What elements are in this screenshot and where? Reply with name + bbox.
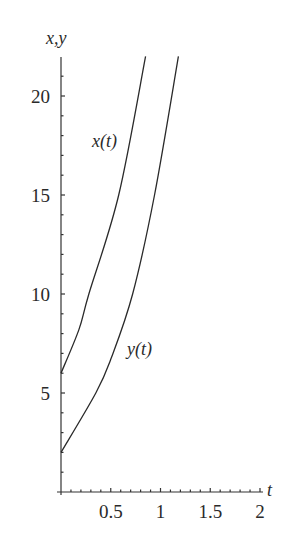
x-tick-label: 1 [156, 501, 166, 522]
series-label-y: y(t) [125, 339, 152, 360]
y-tick-label: 20 [31, 86, 50, 107]
chart: 0.511.525101520 x,y t x(t) y(t) [0, 0, 296, 554]
labels: 0.511.525101520 [31, 86, 265, 522]
series-curve-x [61, 56, 146, 373]
axes [57, 57, 263, 495]
y-axis-title: x,y [45, 28, 66, 48]
x-tick-label: 1.5 [198, 501, 222, 522]
x-axis-title: t [267, 480, 273, 500]
curves [61, 56, 178, 452]
series-curve-y [61, 56, 178, 452]
y-tick-label: 5 [41, 383, 51, 404]
y-tick-label: 10 [31, 284, 50, 305]
y-tick-label: 15 [31, 185, 50, 206]
x-tick-label: 2 [255, 501, 265, 522]
series-label-x: x(t) [91, 131, 117, 152]
x-tick-label: 0.5 [99, 501, 123, 522]
